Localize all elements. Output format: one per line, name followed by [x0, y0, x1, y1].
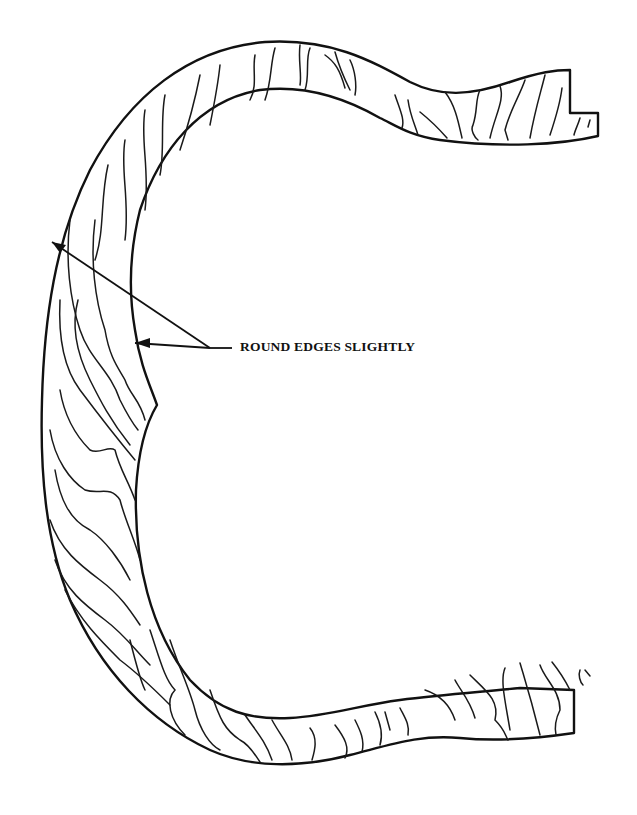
part-outline	[42, 42, 598, 765]
c-shaped-part-drawing	[0, 0, 637, 815]
callout-label: ROUND EDGES SLIGHTLY	[240, 339, 415, 355]
diagram-canvas: ROUND EDGES SLIGHTLY	[0, 0, 637, 815]
